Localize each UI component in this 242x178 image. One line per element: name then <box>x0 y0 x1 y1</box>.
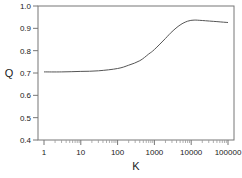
plot-frame <box>38 6 234 140</box>
x-axis: 110100100010000100000 <box>42 140 242 157</box>
y-axis: 0.40.50.60.70.80.91.0 <box>20 2 38 145</box>
y-tick-label: 0.6 <box>20 91 32 100</box>
x-tick-label: 1000 <box>146 148 164 157</box>
x-tick-label: 10 <box>76 148 85 157</box>
x-tick-label: 100000 <box>215 148 242 157</box>
y-axis-label: Q <box>5 67 14 79</box>
y-tick-label: 0.7 <box>20 69 32 78</box>
y-tick-label: 0.4 <box>20 136 32 145</box>
x-tick-label: 100 <box>111 148 125 157</box>
series-line-q <box>44 20 228 72</box>
y-tick-label: 0.8 <box>20 47 32 56</box>
y-tick-label: 0.9 <box>20 24 32 33</box>
line-chart: 0.40.50.60.70.80.91.0 110100100010000100… <box>0 0 242 178</box>
x-tick-label: 10000 <box>180 148 203 157</box>
y-tick-label: 1.0 <box>20 2 32 11</box>
x-tick-label: 1 <box>42 148 47 157</box>
y-tick-label: 0.5 <box>20 114 32 123</box>
x-axis-label: K <box>132 160 140 172</box>
